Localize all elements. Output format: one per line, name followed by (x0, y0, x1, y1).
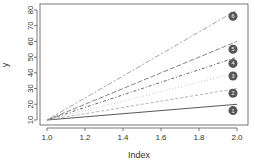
x-tick-label: 2.0 (231, 133, 243, 142)
line-chart: 123456 1.01.21.41.61.82.0102030405060708… (0, 0, 255, 165)
marker-5: 5 (229, 45, 238, 54)
svg-text:3: 3 (231, 73, 234, 79)
series-lines (47, 10, 237, 120)
series-line-3 (47, 73, 237, 120)
y-tick-label: 30 (26, 84, 35, 92)
marker-1: 1 (229, 106, 238, 115)
marker-6: 6 (229, 12, 238, 21)
svg-text:5: 5 (231, 46, 234, 52)
x-tick-label: 1.0 (41, 133, 53, 142)
series-line-4 (47, 57, 237, 120)
series-line-5 (47, 41, 237, 120)
y-tick-label: 60 (26, 37, 35, 45)
x-axis-label: Index (128, 150, 151, 160)
svg-text:4: 4 (231, 60, 234, 66)
y-tick-label: 20 (26, 100, 35, 108)
svg-text:1: 1 (231, 108, 234, 114)
svg-text:2: 2 (231, 90, 234, 96)
marker-3: 3 (229, 72, 238, 81)
axes: 1.01.21.41.61.82.01020304050607080 (26, 6, 243, 142)
svg-text:6: 6 (231, 13, 234, 19)
x-tick-label: 1.2 (79, 133, 91, 142)
series-markers: 123456 (229, 12, 238, 115)
y-tick-label: 10 (26, 116, 35, 124)
series-line-2 (47, 89, 237, 120)
y-tick-label: 40 (26, 69, 35, 77)
marker-4: 4 (229, 59, 238, 68)
series-line-1 (47, 104, 237, 120)
x-tick-label: 1.4 (117, 133, 129, 142)
series-line-6 (47, 10, 237, 120)
marker-2: 2 (229, 89, 238, 98)
y-axis-label: y (0, 62, 10, 67)
x-tick-label: 1.8 (193, 133, 205, 142)
y-tick-label: 50 (26, 53, 35, 61)
y-tick-label: 80 (26, 6, 35, 14)
x-tick-label: 1.6 (155, 133, 167, 142)
y-tick-label: 70 (26, 22, 35, 30)
